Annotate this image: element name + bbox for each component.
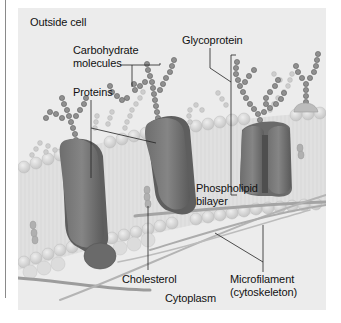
carbohydrate-label-line2: molecules <box>73 57 122 70</box>
peripheral-protein <box>294 103 318 112</box>
outside-cell-label: Outside cell <box>30 16 86 29</box>
microfilament-label-line1: Microfilament <box>230 273 294 286</box>
microfilament-label-line2: (cytoskeleton) <box>230 286 297 299</box>
phospholipid-label-line2: bilayer <box>196 195 228 208</box>
phospholipid-label-line1: Phospholipid <box>196 182 258 195</box>
cytoplasm-label: Cytoplasm <box>165 292 216 305</box>
glycoprotein-label: Glycoprotein <box>182 34 243 47</box>
cholesterol-label: Cholesterol <box>122 273 177 286</box>
carbohydrate-label-line1: Carbohydrate <box>73 44 138 57</box>
proteins-label: Proteins <box>73 86 113 99</box>
